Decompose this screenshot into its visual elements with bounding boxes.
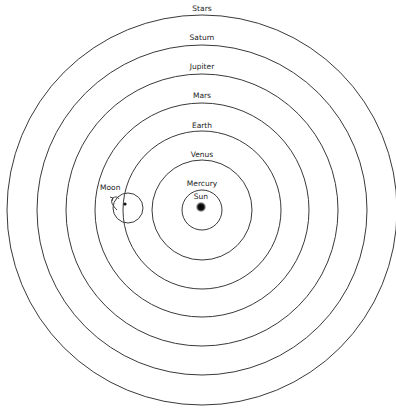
orbit-label-mercury: Mercury	[187, 179, 218, 188]
orbit-label-stars: Stars	[192, 4, 211, 13]
orbit-label-saturn: Saturn	[190, 33, 215, 42]
geocentric-diagram: MercuryVenusEarthMarsJupiterSaturnStars …	[0, 0, 396, 413]
sun-icon	[196, 202, 206, 212]
orbit-label-mars: Mars	[193, 91, 211, 100]
orbit-label-earth: Earth	[192, 121, 212, 130]
moon-body-icon	[123, 202, 126, 205]
sun-label: Sun	[194, 192, 209, 201]
moon-label: Moon	[100, 183, 121, 192]
orbit-label-jupiter: Jupiter	[189, 62, 215, 71]
orbit-label-venus: Venus	[191, 150, 214, 159]
